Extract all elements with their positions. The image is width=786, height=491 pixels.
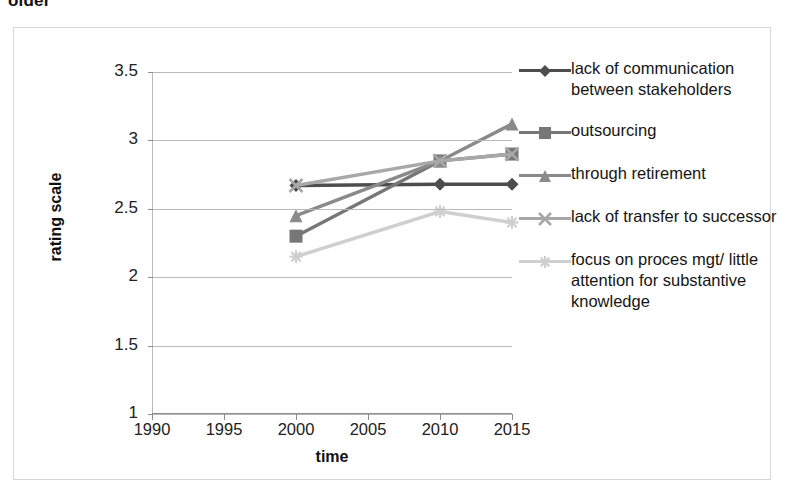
y-tick-label: 1.5 [84,335,138,355]
triangle-marker-icon [539,170,551,182]
star-marker-icon [506,216,519,229]
star-marker-icon [290,250,303,263]
legend-key [519,121,571,143]
legend-label: through retirement [571,163,706,184]
x-tick-label: 2015 [494,420,531,439]
x-tick-label: 1990 [134,420,171,439]
x-tick-mark [440,414,441,420]
legend-key [519,59,571,81]
legend-item[interactable]: through retirement [519,163,786,186]
y-gridline [152,140,512,141]
x-tick-label: 2005 [350,420,387,439]
legend-label: lack of communication between stakeholde… [571,58,783,100]
y-tick-label: 1 [84,403,138,423]
x-cross-marker-icon [537,211,553,227]
square-marker-icon [290,230,303,243]
y-tick-mark [148,72,153,73]
x-tick-label: 1995 [206,420,243,439]
x-tick-label: 2010 [422,420,459,439]
x-tick-mark [368,414,369,420]
legend-label: outsourcing [571,120,656,141]
y-tick-mark [148,140,153,141]
y-gridline [152,277,512,278]
star-marker-icon [537,254,553,270]
legend-label: focus on proces mgt/ little attention fo… [571,249,783,312]
chart-legend: lack of communication between stakeholde… [519,58,786,332]
y-tick-label: 3 [84,129,138,149]
x-tick-mark [512,414,513,420]
legend-key [519,164,571,186]
chart-screenshot: older rating scale 11.522.533.5 19901995… [0,0,786,491]
series-lines [152,72,512,414]
y-tick-mark [148,209,153,210]
square-marker-icon [539,127,551,139]
y-tick-label: 2.5 [84,198,138,218]
legend-item[interactable]: focus on proces mgt/ little attention fo… [519,249,786,312]
triangle-marker-icon [537,168,553,184]
square-marker-icon [537,125,553,141]
x-cross-marker-icon [539,213,551,225]
partial-text-above-chart: older [8,0,51,11]
diamond-marker-icon [506,178,519,191]
triangle-marker-icon [506,117,519,130]
y-axis-title: rating scale [47,147,65,287]
y-tick-mark [148,346,153,347]
y-tick-label: 2 [84,266,138,286]
plot-area [152,72,512,414]
star-marker-icon [434,205,447,218]
diamond-marker-icon [537,63,553,79]
series-line [296,124,512,216]
x-axis-title: time [152,448,512,466]
y-gridline [152,346,512,347]
y-tick-label: 3.5 [84,61,138,81]
legend-key [519,207,571,229]
star-marker-icon [539,256,551,268]
y-gridline [152,209,512,210]
y-tick-mark [148,277,153,278]
x-tick-label: 2000 [278,420,315,439]
diamond-marker-icon [434,178,447,191]
x-tick-mark [224,414,225,420]
legend-item[interactable]: lack of communication between stakeholde… [519,58,786,100]
x-tick-mark [152,414,153,420]
legend-label: lack of transfer to successor [571,206,776,227]
y-gridline [152,414,512,415]
x-axis-tick-labels: 199019952000200520102015 [152,420,512,444]
legend-key [519,250,571,272]
diamond-marker-icon [539,65,551,77]
series-line [296,184,512,185]
y-axis-tick-labels: 11.522.533.5 [84,72,138,414]
x-tick-mark [296,414,297,420]
legend-item[interactable]: outsourcing [519,120,786,143]
y-gridline [152,72,512,73]
chart-frame: rating scale 11.522.533.5 19901995200020… [13,27,771,480]
legend-item[interactable]: lack of transfer to successor [519,206,786,229]
